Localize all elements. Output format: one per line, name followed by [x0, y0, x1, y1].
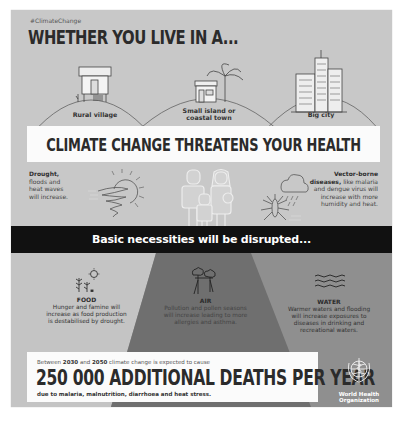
deaths-headline: 250 000 ADDITIONAL DEATHS PER YEAR: [36, 366, 375, 390]
drought-text: Drought, floods and heat waves will incr…: [29, 170, 68, 200]
air-section: AIR Pollution and pollen seasons will in…: [148, 297, 263, 326]
deaths-intro: Between 2030 and 2050 climate change is …: [37, 359, 210, 365]
headline: CLIMATE CHANGE THREATENS YOUR HEALTH: [46, 134, 361, 155]
vector-borne-text: Vector-borne diseases, like malaria and …: [310, 170, 378, 208]
who-emblem-icon: [344, 355, 374, 385]
location-label-small-island: Small island or coastal town: [174, 108, 244, 122]
waves-icon: [313, 273, 347, 289]
trees-icon: [189, 266, 219, 296]
skyscrapers-icon: [291, 50, 347, 112]
mosquito-rain-cloud-icon: [255, 170, 315, 228]
tornado-sun-icon: [86, 167, 156, 222]
family-icon: [176, 168, 246, 230]
who-logo: World Health Organization: [333, 355, 385, 403]
who-name: World Health Organization: [333, 391, 385, 403]
palm-hut-icon: [195, 64, 243, 102]
headline-box: CLIMATE CHANGE THREATENS YOUR HEALTH: [27, 126, 380, 162]
deaths-box: Between 2030 and 2050 climate change is …: [27, 352, 318, 402]
deaths-causes: due to malaria, malnutrition, diarrhoea …: [37, 391, 211, 397]
water-section: WATER Warmer waters and flooding will in…: [269, 298, 389, 334]
infographic-card: #ClimateChange WHETHER YOU LIVE IN A...: [11, 10, 392, 407]
plants-icon: [73, 268, 103, 294]
food-heading: FOOD: [29, 296, 144, 304]
stilt-house-icon: [76, 67, 111, 102]
necessities-banner: Basic necessities will be disrupted...: [11, 226, 392, 253]
food-section: FOOD Hunger and famine will increase as …: [29, 296, 144, 325]
air-heading: AIR: [148, 297, 263, 305]
location-label-rural-village: Rural village: [65, 112, 125, 119]
water-heading: WATER: [269, 298, 389, 306]
location-label-big-city: Big city: [291, 112, 351, 119]
